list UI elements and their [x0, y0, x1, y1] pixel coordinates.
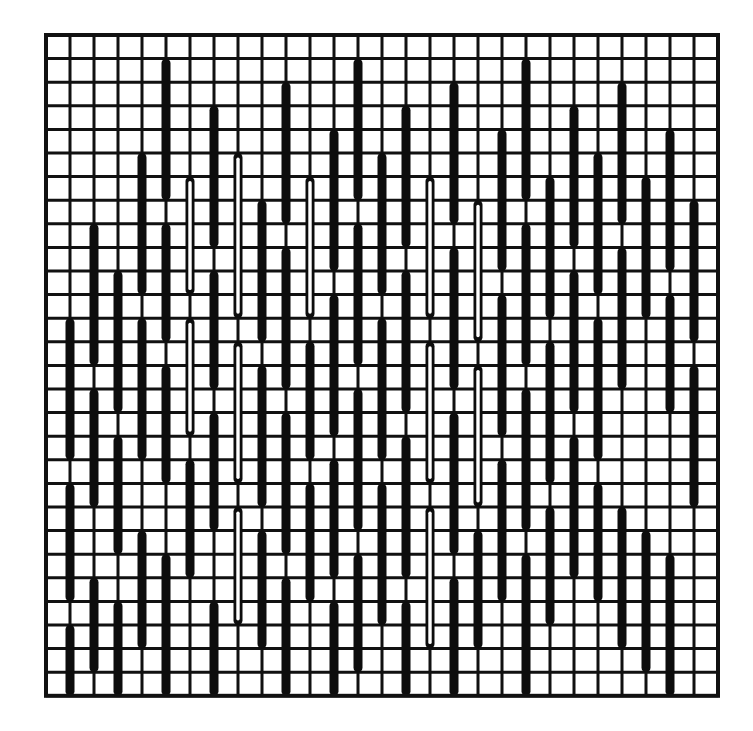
page-root	[0, 0, 753, 731]
bars-layer	[70, 63, 694, 691]
grid-bar-figure	[0, 0, 753, 731]
figure-container	[0, 0, 753, 731]
